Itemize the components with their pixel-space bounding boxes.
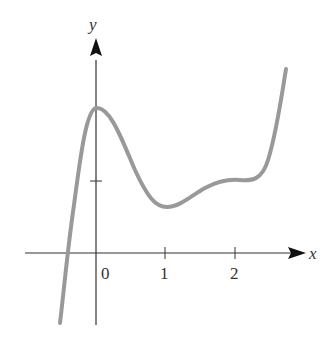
function-curve [60,69,286,323]
x-tick-label-2: 2 [230,264,239,283]
x-tick-label-1: 1 [160,264,169,283]
y-axis-arrow-icon [90,38,102,56]
x-axis-label: x [308,244,317,263]
y-axis-label: y [87,15,97,34]
x-tick-label-0: 0 [101,264,110,283]
function-graph: x y 0 1 2 [0,0,330,346]
